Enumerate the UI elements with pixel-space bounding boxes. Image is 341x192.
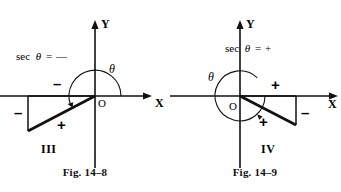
- x-axis-label: X: [155, 96, 164, 110]
- figure-caption: Fig. 14–8: [0, 166, 170, 178]
- origin-label: O: [98, 97, 106, 109]
- figure-panel-fig-14-8: X Y O θ – – + III sec θ = — Fig. 14–8: [0, 0, 170, 192]
- secant-equals: =: [46, 50, 52, 62]
- angle-label: θ: [208, 70, 214, 84]
- sign-horizontal: +: [271, 76, 280, 93]
- secant-function-name: sec: [225, 42, 239, 54]
- sign-vertical: –: [301, 104, 309, 121]
- y-axis-label: Y: [101, 17, 110, 31]
- reference-triangle: [240, 96, 296, 125]
- figure-caption: Fig. 14–9: [170, 166, 340, 178]
- secant-variable: θ: [36, 50, 42, 62]
- sign-horizontal: –: [53, 75, 61, 92]
- diagram-fig-14-9: X Y O θ + – + IV sec θ = +: [170, 0, 340, 170]
- quadrant-label: IV: [261, 142, 275, 156]
- secant-sign-value: —: [55, 50, 68, 62]
- origin-label: O: [229, 100, 237, 112]
- secant-variable: θ: [245, 42, 251, 54]
- sign-hypotenuse: +: [57, 116, 66, 133]
- angle-label: θ: [109, 62, 115, 76]
- secant-function-name: sec: [16, 50, 30, 62]
- diagram-fig-14-8: X Y O θ – – + III sec θ = —: [0, 0, 170, 170]
- secant-sign-formula: sec θ = +: [225, 42, 271, 54]
- secant-sign-formula: sec θ = —: [16, 50, 68, 62]
- secant-equals: =: [255, 42, 261, 54]
- sign-hypotenuse: +: [259, 113, 268, 130]
- sign-vertical: –: [14, 104, 22, 121]
- figure-sheet: X Y O θ – – + III sec θ = — Fig. 14–8: [0, 0, 341, 192]
- y-axis-label: Y: [246, 17, 255, 31]
- y-axis: [91, 20, 98, 168]
- secant-sign-value: +: [265, 42, 271, 54]
- figure-panel-fig-14-9: X Y O θ + – + IV sec θ = + Fig. 14–9: [170, 0, 340, 192]
- quadrant-label: III: [41, 142, 57, 156]
- x-axis-label: X: [328, 97, 337, 111]
